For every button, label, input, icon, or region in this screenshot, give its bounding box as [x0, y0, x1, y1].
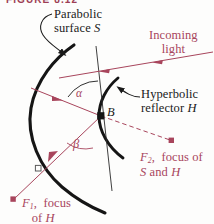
f2-symbol-s: S: [140, 165, 146, 179]
label-focus-f1: F1, focus of H: [22, 197, 71, 224]
f2-symbol-h: H: [171, 165, 180, 179]
incoming-line1: Incoming: [149, 28, 198, 42]
point-f1-marker: [10, 196, 15, 201]
f1-symbol: F: [22, 196, 30, 210]
hyperbolic-line1: Hyperbolic: [141, 87, 198, 101]
parabolic-line2: surface: [54, 21, 91, 35]
label-parabolic-surface: Parabolic surface S: [54, 8, 102, 35]
point-b-marker: [97, 112, 104, 119]
parabolic-surface-curve: [30, 45, 105, 213]
incoming-arrowhead-2: [152, 60, 163, 64]
hyperbolic-leader-line: [119, 88, 140, 97]
label-incoming-light: Incoming light: [149, 29, 198, 56]
f2-and: and: [150, 165, 168, 179]
reflected-ray-arrowhead: [52, 96, 63, 101]
hyperbolic-line2: reflector: [141, 101, 184, 115]
label-hyperbolic-reflector: Hyperbolic reflector H: [141, 88, 198, 115]
point-f2-marker: [169, 138, 174, 143]
hyperbolic-symbol: H: [187, 101, 196, 115]
label-focus-f2: F2, focus of S and H: [140, 151, 203, 179]
reflected-ray-to-b: [31, 88, 101, 116]
ray-f1-arrowhead: [48, 151, 58, 162]
incoming-arrowhead-1: [99, 69, 110, 73]
parabola-intersection-marker: [35, 165, 41, 171]
ray-b-to-f1: [14, 116, 101, 199]
dashed-ray-b-to-f2: [101, 116, 170, 140]
parabolic-line1: Parabolic: [54, 7, 102, 21]
angle-arc-beta: [67, 143, 93, 149]
parabolic-symbol: S: [94, 21, 100, 35]
f1-comma: ,: [34, 196, 37, 210]
f2-comma: ,: [152, 150, 155, 164]
f1-text: focus: [43, 196, 71, 210]
figure-container: FIGURE 8.12: [0, 0, 214, 224]
label-point-b: B: [107, 106, 115, 120]
f1-of: of: [32, 211, 43, 224]
f2-text: focus of: [161, 150, 202, 164]
incoming-line2: light: [162, 42, 185, 56]
f2-symbol: F: [140, 150, 148, 164]
label-angle-beta: β: [73, 138, 79, 152]
label-angle-alpha: α: [76, 87, 82, 99]
f1-symbol-h: H: [46, 211, 55, 224]
angle-arc-alpha: [68, 81, 98, 97]
